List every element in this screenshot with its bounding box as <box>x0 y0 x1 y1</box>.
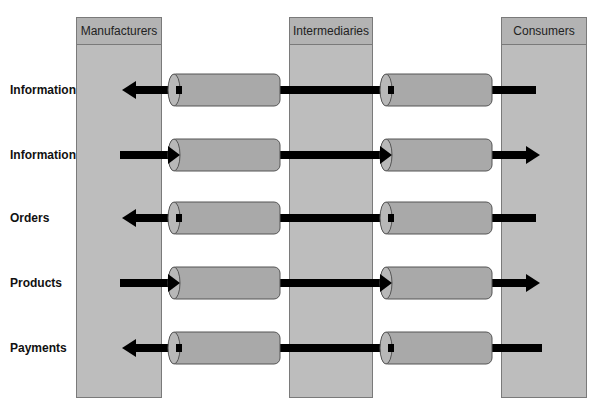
flow-row-payments-left <box>122 332 542 364</box>
flow-row-products-right <box>120 267 540 299</box>
flow-row-information-left <box>122 74 536 106</box>
flow-diagram <box>0 0 595 405</box>
flow-row-information-right <box>120 139 540 171</box>
flow-row-orders-left <box>122 202 536 234</box>
